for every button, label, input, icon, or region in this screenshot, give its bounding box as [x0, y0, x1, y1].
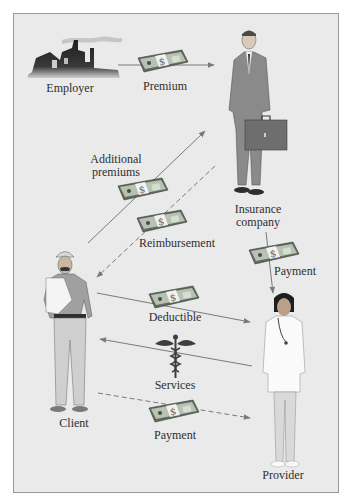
premium-label: Premium [143, 80, 187, 93]
client-payment-label: Payment [154, 429, 196, 442]
additional-premiums-label-line2: premiums [92, 166, 140, 179]
services-label: Services [155, 379, 196, 392]
reimbursement-label: Reimbursement [139, 237, 215, 250]
insurer-payment-arrow [266, 232, 273, 293]
deductible-label: Deductible [149, 311, 202, 324]
client-label: Client [59, 417, 88, 430]
employer-label: Employer [46, 82, 93, 95]
money-icon [138, 50, 188, 72]
provider-label: Provider [262, 469, 303, 482]
insurance-company-label-line2: company [236, 216, 280, 229]
businessman-with-briefcase-icon [229, 31, 287, 196]
caduceus-icon [155, 335, 196, 379]
factory-icon [28, 36, 122, 78]
insurer-payment-label: Payment [274, 265, 316, 278]
doctor-icon [263, 293, 305, 467]
injured-worker-icon [44, 252, 92, 413]
